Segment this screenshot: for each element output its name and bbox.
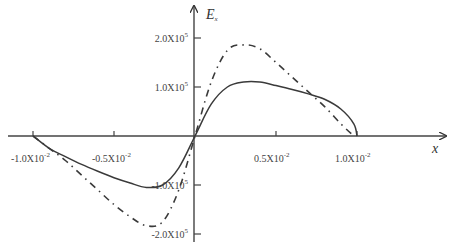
x-axis-label: x xyxy=(431,141,439,156)
y-tick-label: -2.0X105 xyxy=(151,227,188,240)
y-axis-label: Ex xyxy=(205,7,219,23)
y-tick-label: 1.0X105 xyxy=(155,80,189,93)
y-tick-label: 2.0X105 xyxy=(155,31,189,44)
x-tick-label: -0.5X10-2 xyxy=(92,151,131,164)
x-tick-label: -1.0X10-2 xyxy=(11,151,50,164)
x-tick-label: 1.0X10-2 xyxy=(335,151,371,164)
chart: -1.0X10-2-0.5X10-20.5X10-21.0X10-22.0X10… xyxy=(0,0,451,247)
axes xyxy=(8,6,446,242)
solid-series-line xyxy=(33,82,357,188)
x-tick-label: 0.5X10-2 xyxy=(254,151,290,164)
